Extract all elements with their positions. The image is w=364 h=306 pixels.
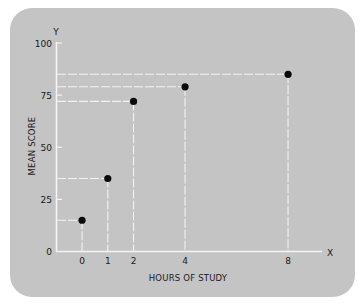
y-tick-label: 100	[35, 39, 52, 49]
data-point	[284, 71, 291, 78]
y-tick-label: 25	[41, 195, 52, 205]
x-ticks: 01248	[79, 256, 291, 266]
data-point	[181, 83, 188, 90]
x-tick-label: 4	[182, 256, 188, 266]
scatter-chart: 0255075100 01248 Y X HOURS OF STUDY MEAN…	[0, 0, 364, 306]
y-axis-letter: Y	[52, 27, 59, 37]
drop-lines	[57, 74, 288, 251]
data-point	[78, 217, 85, 224]
y-tick-label: 50	[41, 143, 53, 153]
axes	[56, 42, 322, 252]
data-point	[130, 98, 137, 105]
x-tick-label: 1	[105, 256, 111, 266]
y-tick-label: 0	[46, 247, 52, 257]
x-tick-label: 0	[79, 256, 85, 266]
x-tick-label: 2	[131, 256, 137, 266]
y-tick-label: 75	[41, 91, 52, 101]
y-ticks: 0255075100	[35, 39, 62, 258]
x-axis-letter: X	[327, 248, 333, 258]
y-axis-title: MEAN SCORE	[27, 117, 37, 176]
data-point	[104, 175, 111, 182]
x-tick-label: 8	[285, 256, 291, 266]
x-axis-title: HOURS OF STUDY	[149, 273, 228, 283]
